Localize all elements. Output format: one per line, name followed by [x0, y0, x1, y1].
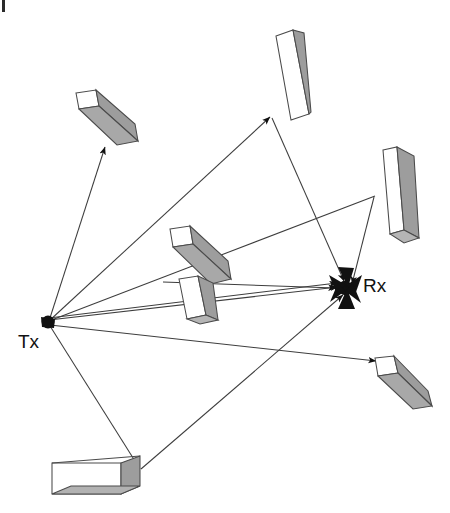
building-top-left	[76, 90, 138, 145]
building-top	[276, 30, 311, 120]
building-center-end-face	[170, 226, 193, 247]
rx-label: Rx	[363, 275, 386, 297]
building-bottom	[52, 451, 162, 494]
building-lower-right	[375, 356, 432, 409]
ray-tx-to-lower-right	[50, 325, 376, 361]
tx-label: Tx	[18, 331, 39, 353]
ray-top-to-rx	[272, 118, 344, 281]
figure-canvas: Tx Rx	[0, 0, 450, 513]
building-right	[383, 147, 419, 243]
ray-tx-to-bottom	[50, 326, 140, 469]
building-center	[170, 226, 231, 284]
ray-bottom-to-rx	[141, 295, 343, 469]
ray-right-to-rx	[352, 197, 374, 284]
propagation-scene	[0, 0, 450, 513]
building-center-lower	[179, 276, 218, 324]
